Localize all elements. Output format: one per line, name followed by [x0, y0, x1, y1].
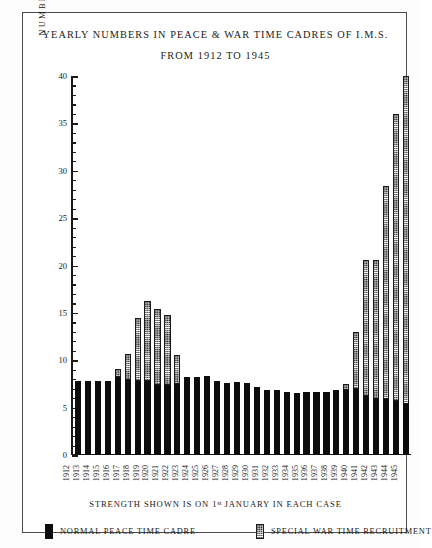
bar-column — [282, 76, 292, 455]
bar-column — [381, 76, 391, 455]
stacked-bar — [75, 381, 81, 455]
stacked-bar — [184, 377, 190, 455]
bar-column — [202, 76, 212, 455]
stacked-bar — [254, 387, 260, 455]
bar-segment-peace — [85, 381, 91, 455]
bar-segment-peace — [393, 401, 399, 455]
title-block: YEARLY NUMBERS IN PEACE & WAR TIME CADRE… — [23, 29, 408, 61]
x-caption-after: JANUARY IN EACH CASE — [222, 499, 342, 509]
x-tick-label: 1925 — [191, 465, 200, 481]
x-tick-label: 1936 — [300, 465, 309, 481]
stacked-bar — [95, 381, 101, 455]
stacked-bar — [363, 260, 369, 455]
x-tick-label: 1927 — [211, 465, 220, 481]
x-tick-label: 1914 — [82, 465, 91, 481]
bar-segment-peace — [284, 392, 290, 455]
bar-segment-peace — [75, 381, 81, 455]
bar-column — [133, 76, 143, 455]
stacked-bar — [154, 309, 160, 455]
stacked-bar — [274, 390, 280, 455]
bar-column — [341, 76, 351, 455]
bar-segment-peace — [214, 381, 220, 455]
bar-column — [351, 76, 361, 455]
y-tick-label: 40 — [43, 71, 67, 81]
y-tick-label: 0 — [43, 450, 67, 460]
x-tick-label: 1931 — [251, 465, 260, 481]
bar-column — [292, 76, 302, 455]
bar-column — [252, 76, 262, 455]
y-tick-label: 30 — [43, 166, 67, 176]
bar-segment-war — [154, 309, 160, 385]
bar-segment-war — [164, 315, 170, 385]
stacked-bar — [224, 383, 230, 455]
bar-segment-peace — [363, 396, 369, 455]
bar-column — [113, 76, 123, 455]
stacked-bar — [164, 315, 170, 455]
x-tick-label: 1938 — [320, 465, 329, 481]
x-tick-label: 1928 — [221, 465, 230, 481]
bar-segment-peace — [234, 382, 240, 455]
chart-legend: NORMAL PEACE TIME CADRE SPECIAL WAR TIME… — [23, 521, 408, 541]
figure-frame: YEARLY NUMBERS IN PEACE & WAR TIME CADRE… — [22, 12, 407, 533]
bar-column — [232, 76, 242, 455]
bar-segment-war — [393, 114, 399, 401]
bar-column — [172, 76, 182, 455]
bar-segment-war — [144, 301, 150, 382]
bar-segment-war — [383, 186, 389, 399]
bar-column — [371, 76, 381, 455]
stacked-bar — [244, 383, 250, 455]
x-tick-label: 1919 — [132, 465, 141, 481]
bar-column — [83, 76, 93, 455]
bar-column — [391, 76, 401, 455]
stacked-bar — [214, 381, 220, 455]
bar-segment-war — [403, 76, 409, 404]
x-tick-label: 1922 — [161, 465, 170, 481]
legend-swatch-war-icon — [256, 524, 264, 539]
bar-column — [321, 76, 331, 455]
x-tick-label: 1934 — [281, 465, 290, 481]
x-tick-label: 1918 — [122, 465, 131, 481]
x-tick-label: 1917 — [112, 465, 121, 481]
bar-column — [153, 76, 163, 455]
bar-column — [73, 76, 83, 455]
x-tick-label: 1916 — [102, 465, 111, 481]
bar-column — [103, 76, 113, 455]
x-tick-label: 1939 — [330, 465, 339, 481]
x-label-column: 1945 — [401, 457, 411, 491]
bar-segment-peace — [125, 380, 131, 455]
y-tick-label: 5 — [43, 403, 67, 413]
stacked-bar — [393, 114, 399, 455]
stacked-bar — [105, 381, 111, 455]
stacked-bar — [194, 377, 200, 455]
stacked-bar — [303, 392, 309, 455]
bar-column — [331, 76, 341, 455]
bar-segment-peace — [184, 377, 190, 455]
bar-segment-peace — [105, 381, 111, 455]
page-subtitle: FROM 1912 TO 1945 — [23, 50, 408, 61]
x-tick-label: 1915 — [92, 465, 101, 481]
bar-segment-peace — [373, 399, 379, 455]
bar-segment-war — [135, 318, 141, 381]
stacked-bar — [144, 301, 150, 455]
stacked-bar — [383, 186, 389, 455]
stacked-bar — [234, 382, 240, 455]
bar-segment-peace — [303, 392, 309, 455]
bar-segment-peace — [403, 404, 409, 455]
x-tick-label: 1932 — [261, 465, 270, 481]
bar-group — [73, 76, 411, 455]
bar-segment-war — [353, 332, 359, 389]
x-tick-label: 1935 — [291, 465, 300, 481]
bar-segment-peace — [274, 390, 280, 455]
stacked-bar — [403, 76, 409, 455]
x-tick-label: 1920 — [141, 465, 150, 481]
x-tick-label: 1940 — [340, 465, 349, 481]
x-tick-label: 1926 — [201, 465, 210, 481]
x-tick-label: 1924 — [181, 465, 190, 481]
x-tick-label: 1942 — [360, 465, 369, 481]
x-tick-label: 1933 — [271, 465, 280, 481]
stacked-bar — [204, 376, 210, 455]
bar-segment-peace — [264, 390, 270, 455]
stacked-bar — [125, 354, 131, 455]
x-tick-label: 1921 — [151, 465, 160, 481]
legend-item-war: SPECIAL WAR TIME RECRUITMENT — [256, 524, 432, 539]
